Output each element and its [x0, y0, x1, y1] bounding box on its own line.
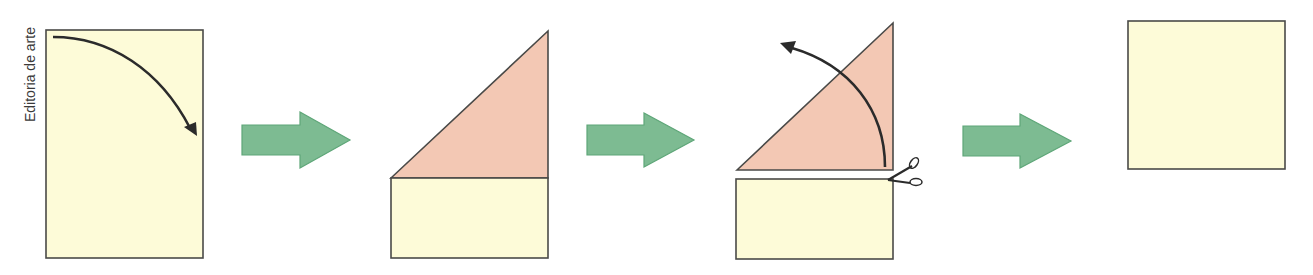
- paper-square-folding-diagram: [0, 0, 1313, 275]
- step-4-square-sheet: [1128, 21, 1285, 169]
- step-1-rectangle-sheet: [46, 30, 203, 258]
- next-step-arrow-icon: [963, 114, 1071, 168]
- step-2-folded-sheet: [391, 31, 548, 258]
- next-step-arrow-icon: [587, 113, 694, 167]
- next-step-arrow-icon: [242, 112, 350, 168]
- art-credit-label: Editoria de arte: [22, 27, 38, 122]
- step-3-cut-strip: [736, 23, 922, 259]
